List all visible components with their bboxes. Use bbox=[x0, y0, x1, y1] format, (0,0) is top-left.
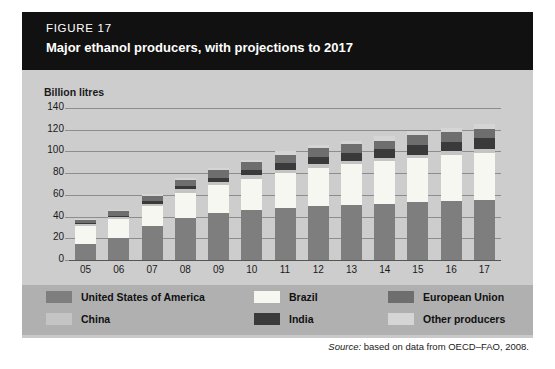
bar-segment bbox=[308, 206, 329, 260]
legend-swatch-india bbox=[254, 313, 280, 325]
bar-segment bbox=[75, 226, 96, 243]
legend-item-india[interactable]: India bbox=[254, 313, 314, 325]
y-tick-label: 20 bbox=[24, 231, 64, 242]
chart-legend: United States of AmericaBrazilEuropean U… bbox=[22, 285, 533, 335]
bar-segment bbox=[341, 144, 362, 153]
y-tick-label: 100 bbox=[24, 144, 64, 155]
chart-panel: Billion litres 020406080100120140 050607… bbox=[22, 70, 533, 285]
bar-06[interactable] bbox=[108, 210, 129, 260]
y-tick-mark bbox=[65, 151, 69, 152]
y-tick-mark bbox=[65, 173, 69, 174]
legend-label: China bbox=[81, 313, 110, 325]
bar-09[interactable] bbox=[208, 168, 229, 260]
plot-area: 020406080100120140 050607080910111213141… bbox=[69, 108, 501, 260]
figure-title-bar: FIGURE 17 Major ethanol producers, with … bbox=[22, 12, 533, 70]
bar-segment bbox=[108, 219, 129, 239]
x-tick-label: 17 bbox=[464, 264, 504, 275]
bar-13[interactable] bbox=[341, 141, 362, 260]
bar-segment bbox=[241, 162, 262, 170]
legend-swatch-eu bbox=[388, 291, 414, 303]
y-tick-mark bbox=[65, 130, 69, 131]
y-tick-label: 80 bbox=[24, 166, 64, 177]
bar-segment bbox=[275, 155, 296, 164]
bar-segment bbox=[374, 161, 395, 203]
bar-segment bbox=[441, 142, 462, 152]
bar-segment bbox=[308, 157, 329, 165]
bar-segment bbox=[407, 145, 428, 155]
legend-label: Other producers bbox=[423, 313, 505, 325]
bar-07[interactable] bbox=[142, 194, 163, 260]
figure-container: FIGURE 17 Major ethanol producers, with … bbox=[22, 12, 533, 357]
bar-10[interactable] bbox=[241, 160, 262, 260]
legend-swatch-china bbox=[46, 313, 72, 325]
bar-segment bbox=[175, 193, 196, 218]
legend-item-eu[interactable]: European Union bbox=[388, 291, 504, 303]
y-tick-mark bbox=[65, 108, 69, 109]
y-tick-mark bbox=[65, 217, 69, 218]
y-tick-label: 60 bbox=[24, 188, 64, 199]
bar-segment bbox=[241, 179, 262, 210]
y-tick-mark bbox=[65, 238, 69, 239]
bar-segment bbox=[142, 206, 163, 227]
bar-segment bbox=[441, 155, 462, 202]
gridline bbox=[69, 130, 501, 131]
x-axis-line bbox=[69, 260, 501, 261]
source-prefix: Source: bbox=[328, 341, 361, 352]
legend-label: India bbox=[289, 313, 314, 325]
y-tick-mark bbox=[65, 195, 69, 196]
legend-item-brazil[interactable]: Brazil bbox=[254, 291, 318, 303]
bar-08[interactable] bbox=[175, 178, 196, 260]
bar-segment bbox=[341, 153, 362, 162]
y-axis-title: Billion litres bbox=[44, 86, 104, 98]
legend-swatch-usa bbox=[46, 291, 72, 303]
bar-segment bbox=[208, 170, 229, 178]
bar-segment bbox=[208, 213, 229, 260]
legend-item-other[interactable]: Other producers bbox=[388, 313, 505, 325]
bar-segment bbox=[308, 148, 329, 157]
bar-segment bbox=[275, 173, 296, 208]
y-tick-label: 120 bbox=[24, 123, 64, 134]
legend-label: European Union bbox=[423, 291, 504, 303]
bar-segment bbox=[441, 132, 462, 142]
bar-12[interactable] bbox=[308, 145, 329, 260]
bar-segment bbox=[374, 204, 395, 260]
figure-title: Major ethanol producers, with projection… bbox=[46, 40, 353, 55]
bar-11[interactable] bbox=[275, 151, 296, 260]
bar-segment bbox=[474, 129, 495, 139]
bar-segment bbox=[275, 208, 296, 260]
bar-15[interactable] bbox=[407, 131, 428, 260]
bar-segment bbox=[308, 168, 329, 206]
legend-swatch-other bbox=[388, 313, 414, 325]
y-tick-label: 140 bbox=[24, 101, 64, 112]
legend-label: United States of America bbox=[81, 291, 205, 303]
bar-segment bbox=[341, 164, 362, 204]
legend-item-china[interactable]: China bbox=[46, 313, 110, 325]
bar-segment bbox=[474, 138, 495, 149]
bar-segment bbox=[374, 141, 395, 150]
y-tick-label: 0 bbox=[24, 253, 64, 264]
legend-swatch-brazil bbox=[254, 291, 280, 303]
y-tick-label: 40 bbox=[24, 210, 64, 221]
legend-label: Brazil bbox=[289, 291, 318, 303]
gridline bbox=[69, 108, 501, 109]
bar-17[interactable] bbox=[474, 124, 495, 260]
bar-16[interactable] bbox=[441, 128, 462, 260]
legend-item-usa[interactable]: United States of America bbox=[46, 291, 205, 303]
bar-segment bbox=[407, 202, 428, 260]
bar-segment bbox=[241, 210, 262, 260]
bar-segment bbox=[407, 135, 428, 145]
bar-segment bbox=[474, 200, 495, 260]
bar-14[interactable] bbox=[374, 136, 395, 260]
figure-number: FIGURE 17 bbox=[46, 22, 112, 34]
bar-segment bbox=[175, 218, 196, 260]
bar-segment bbox=[374, 149, 395, 158]
bar-05[interactable] bbox=[75, 219, 96, 260]
bar-segment bbox=[142, 226, 163, 260]
bar-segment bbox=[341, 205, 362, 260]
source-text: based on data from OECD–FAO, 2008. bbox=[361, 341, 529, 352]
bar-segment bbox=[108, 238, 129, 260]
bar-segment bbox=[474, 153, 495, 201]
bar-segment bbox=[441, 201, 462, 260]
bar-segment bbox=[407, 158, 428, 203]
bar-segment bbox=[208, 185, 229, 213]
